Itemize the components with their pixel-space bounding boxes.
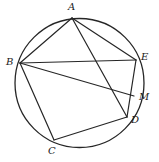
- vertex-label-d: D: [131, 115, 139, 125]
- geometry-svg: [0, 0, 159, 162]
- chord-ED: [127, 60, 136, 117]
- chord-AB: [20, 18, 72, 63]
- vertex-label-a: A: [68, 2, 75, 12]
- vertex-label-b: B: [6, 57, 13, 67]
- vertex-label-c: C: [48, 146, 56, 156]
- chord-AD: [72, 18, 127, 117]
- chord-BC: [20, 63, 54, 140]
- geometry-figure-canvas: ABCDEM: [0, 0, 159, 162]
- vertex-label-e: E: [141, 52, 148, 62]
- circumscribed-circle: [15, 19, 144, 148]
- chord-layer: [20, 18, 136, 140]
- chord-BM: [20, 63, 134, 96]
- chord-BE: [20, 60, 136, 63]
- vertex-label-m: M: [139, 92, 149, 102]
- circle-layer: [15, 19, 144, 148]
